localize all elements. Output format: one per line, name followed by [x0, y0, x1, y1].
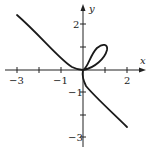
- x-tick-label-2: 2: [124, 75, 130, 86]
- curve-folium: [17, 15, 127, 127]
- y-axis-label: y: [88, 3, 95, 14]
- plot-area: −3 −1 2 2 −1 −3 x y: [0, 0, 150, 151]
- x-tick-label-neg1: −1: [53, 75, 68, 86]
- y-tick-label-2: 2: [73, 19, 79, 30]
- y-tick-label-neg3: −3: [68, 132, 83, 143]
- y-tick-label-neg1: −1: [68, 87, 83, 98]
- x-tick-label-neg3: −3: [9, 75, 24, 86]
- x-axis-label: x: [140, 55, 146, 66]
- y-axis-arrow-icon: [81, 4, 86, 11]
- x-axis-arrow-icon: [139, 68, 146, 73]
